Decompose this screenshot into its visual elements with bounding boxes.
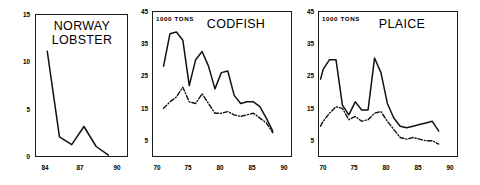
data-series-dash-dot [321,107,439,144]
ytick-label: 35 [294,40,314,47]
ytick-label: 15 [294,105,314,112]
ytick-label: 25 [294,72,314,79]
data-series-solid [321,58,439,131]
series-layer-plaice [0,0,480,185]
xtick-label: 80 [377,164,395,171]
xtick-label: 85 [409,164,427,171]
xtick-label: 70 [314,164,332,171]
xtick-label: 90 [441,164,459,171]
ytick-label: 5 [294,137,314,144]
panel-plaice: 1000 TONS PLAICE 45 35 25 15 5 70 75 80 … [0,0,480,185]
ytick-label: 45 [294,8,314,15]
xtick-label: 75 [345,164,363,171]
figure-root: NORWAY LOBSTER 15 10 5 0 84 87 90 1000 T… [0,0,480,185]
